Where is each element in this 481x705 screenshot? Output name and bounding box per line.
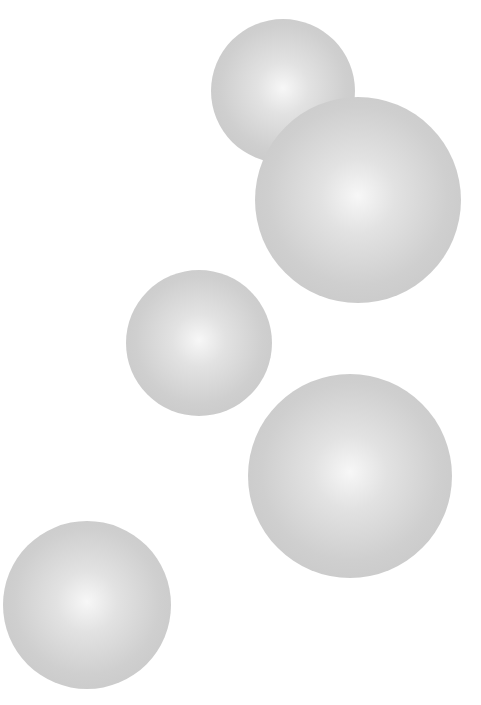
sphere-3 (126, 270, 272, 416)
sphere-5 (3, 521, 171, 689)
sphere-2 (255, 97, 461, 303)
sphere-4 (248, 374, 452, 578)
